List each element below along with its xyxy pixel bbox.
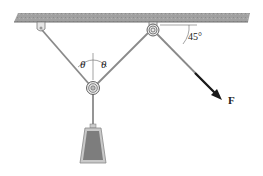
- pulley-diagram: [0, 0, 263, 176]
- weight: [80, 124, 106, 163]
- middle-pulley: [87, 82, 100, 95]
- force-label: F: [228, 95, 235, 106]
- ceiling: [14, 13, 250, 22]
- left-anchor: [37, 22, 45, 31]
- ropes: [42, 30, 214, 126]
- theta-left-label: θ: [80, 59, 85, 70]
- force-arrow: [195, 73, 222, 100]
- angle-label: 45°: [188, 32, 202, 42]
- theta-right-label: θ: [101, 59, 106, 70]
